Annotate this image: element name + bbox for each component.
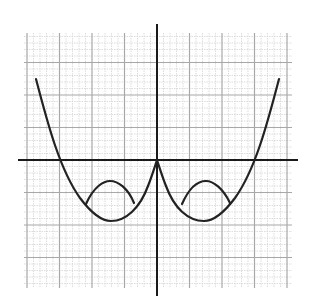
graph-figure	[0, 0, 320, 302]
curve-right-branch	[157, 79, 279, 221]
graph-canvas	[0, 0, 320, 302]
curve-left-branch	[36, 79, 157, 221]
